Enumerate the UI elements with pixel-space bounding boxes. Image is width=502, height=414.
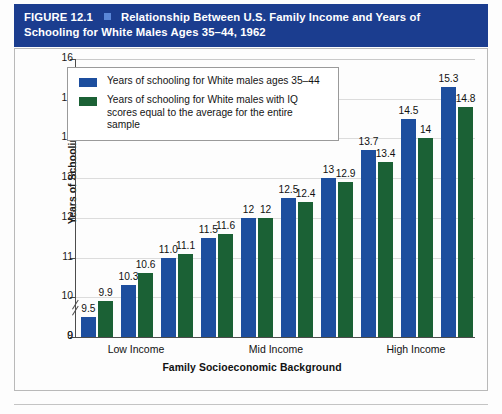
bar — [281, 198, 296, 337]
bar — [321, 178, 336, 337]
bar-value-label: 14.5 — [392, 105, 424, 116]
bar — [258, 218, 273, 337]
bottom-divider — [14, 404, 488, 405]
x-axis-line — [75, 337, 475, 338]
bar-value-label: 13.7 — [352, 136, 384, 147]
x-axis-title: Family Socioeconomic Background — [15, 362, 489, 373]
bar — [241, 218, 256, 337]
bar — [298, 202, 313, 337]
bar — [378, 162, 393, 337]
bar — [138, 273, 153, 337]
chart-frame: Years of Schooling 1615141312111090 9.59… — [14, 48, 488, 391]
bar-value-label: 12.4 — [290, 188, 322, 199]
bar — [441, 87, 456, 337]
bar — [178, 254, 193, 337]
legend-color-swatch — [78, 77, 98, 88]
legend-color-swatch — [78, 96, 98, 107]
y-axis-tick-label: 13 — [45, 171, 73, 182]
y-axis-tick-label: 11 — [45, 251, 73, 262]
chart-legend: Years of schooling for White males ages … — [67, 67, 339, 141]
bar-value-label: 13.4 — [370, 148, 402, 159]
bar — [81, 317, 96, 337]
bar-value-label: 14.8 — [450, 93, 482, 104]
legend-label: Years of schooling for White males ages … — [107, 75, 320, 88]
x-axis-group-label: Mid Income — [226, 343, 326, 355]
legend-item: Years of schooling for White males ages … — [78, 75, 326, 88]
y-axis-tick-label: 16 — [45, 52, 73, 63]
bar — [161, 258, 176, 337]
bar — [458, 107, 473, 337]
bar-value-label: 12 — [250, 204, 282, 215]
y-axis-tick-label: 0 — [45, 330, 73, 341]
square-bullet-icon — [104, 13, 111, 20]
bar — [98, 301, 113, 337]
y-axis-tick-label: 12 — [45, 211, 73, 222]
bar — [201, 238, 216, 337]
bar-value-label: 11.6 — [210, 220, 242, 231]
bar-value-label: 10.6 — [130, 259, 162, 270]
legend-label: Years of schooling for White males with … — [107, 94, 326, 132]
bar — [218, 234, 233, 337]
x-axis-group-label: Low Income — [86, 343, 186, 355]
figure-title-bar: FIGURE 12.1Relationship Between U.S. Fam… — [14, 4, 488, 47]
bar — [338, 182, 353, 337]
bar-value-label: 15.3 — [432, 73, 464, 84]
bar-value-label: 11.1 — [170, 240, 202, 251]
figure-number: FIGURE 12.1 — [24, 11, 93, 23]
bar — [121, 285, 136, 337]
x-axis-group-label: High Income — [366, 343, 466, 355]
bar-value-label: 12.9 — [330, 168, 362, 179]
bar — [401, 119, 416, 337]
legend-item: Years of schooling for White males with … — [78, 94, 326, 132]
bar — [418, 138, 433, 337]
bar-value-label: 14 — [410, 124, 442, 135]
bar-value-label: 9.9 — [90, 287, 122, 298]
figure-container: FIGURE 12.1Relationship Between U.S. Fam… — [0, 0, 502, 414]
bar — [361, 150, 376, 337]
